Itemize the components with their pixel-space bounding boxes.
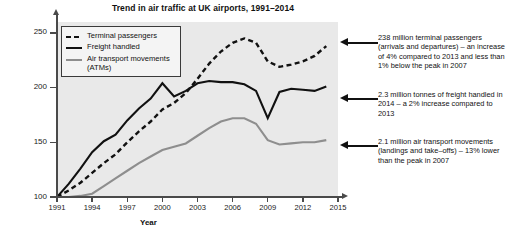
annotation-text: 238 million terminal passengers (arrival…: [378, 33, 510, 70]
annotation-arrow-freight-handled: [340, 94, 378, 104]
y-tick-label: 100: [34, 192, 47, 201]
annotation-arrow-terminal-passengers: [340, 38, 378, 48]
y-tick-label: 150: [34, 137, 47, 146]
legend-label: Freight handled: [87, 42, 140, 51]
y-tick: [50, 32, 56, 33]
annotation-air-transport-movements: 2.1 million air transport movements (lan…: [378, 137, 510, 165]
x-tick: [56, 197, 57, 202]
annotation-terminal-passengers: 238 million terminal passengers (arrival…: [378, 33, 510, 70]
chart-title: Trend in air traffic at UK airports, 199…: [58, 3, 348, 13]
solid-line-swatch-icon: [66, 43, 83, 52]
x-tick-label: 2000: [145, 203, 179, 212]
y-tick-label: 200: [34, 82, 47, 91]
y-tick: [50, 87, 56, 88]
legend-item-freight-handled: Freight handled: [66, 42, 174, 52]
annotation-text: 2.3 million tonnes of freight handled in…: [378, 90, 510, 118]
y-axis: [56, 15, 58, 198]
y-tick: [50, 196, 56, 197]
annotation-freight-handled: 2.3 million tonnes of freight handled in…: [378, 90, 510, 118]
gray-line-swatch-icon: [66, 55, 83, 64]
y-tick: [50, 142, 56, 143]
x-tick-label: 1991: [40, 203, 74, 212]
x-axis-arrow-icon: [342, 193, 348, 199]
x-tick-label: 2015: [321, 203, 355, 212]
x-tick: [197, 197, 198, 202]
x-tick-label: 1997: [110, 203, 144, 212]
x-tick: [91, 197, 92, 202]
x-axis: [56, 196, 344, 198]
legend-item-air-transport-movements: Air transport movements (ATMs): [66, 54, 174, 72]
series-line: [57, 118, 326, 197]
dashed-line-swatch-icon: [66, 32, 83, 41]
y-tick-label: 250: [34, 27, 47, 36]
x-tick: [127, 197, 128, 202]
chart-figure: Trend in air traffic at UK airports, 199…: [0, 0, 510, 239]
x-tick: [267, 197, 268, 202]
x-tick: [302, 197, 303, 202]
x-axis-title: Year: [140, 218, 157, 227]
x-tick-label: 1994: [75, 203, 109, 212]
annotation-text: 2.1 million air transport movements (lan…: [378, 137, 510, 165]
x-tick-label: 2012: [286, 203, 320, 212]
chart-legend: Terminal passengers Freight handled Air …: [61, 26, 181, 77]
x-tick: [337, 197, 338, 202]
legend-label: Terminal passengers: [87, 31, 157, 40]
x-tick: [232, 197, 233, 202]
y-axis-arrow-icon: [53, 9, 59, 15]
legend-item-terminal-passengers: Terminal passengers: [66, 31, 174, 41]
x-tick: [162, 197, 163, 202]
x-tick-label: 2003: [181, 203, 215, 212]
x-tick-label: 2006: [216, 203, 250, 212]
x-tick-label: 2009: [251, 203, 285, 212]
annotation-arrow-air-transport-movements: [340, 141, 378, 151]
legend-label: Air transport movements (ATMs): [87, 54, 174, 72]
